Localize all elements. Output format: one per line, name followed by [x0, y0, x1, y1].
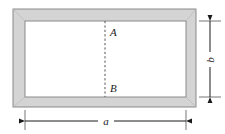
label-point-b: B [110, 82, 117, 94]
label-point-a: A [109, 26, 117, 38]
frame-inner-opening [25, 21, 186, 97]
label-width-a: a [103, 115, 109, 127]
width-dimension-a: a [25, 110, 186, 130]
frame-cross-section-figure: A B b a [0, 0, 225, 134]
label-height-b: b [204, 57, 216, 63]
height-dimension-b: b [199, 21, 221, 97]
